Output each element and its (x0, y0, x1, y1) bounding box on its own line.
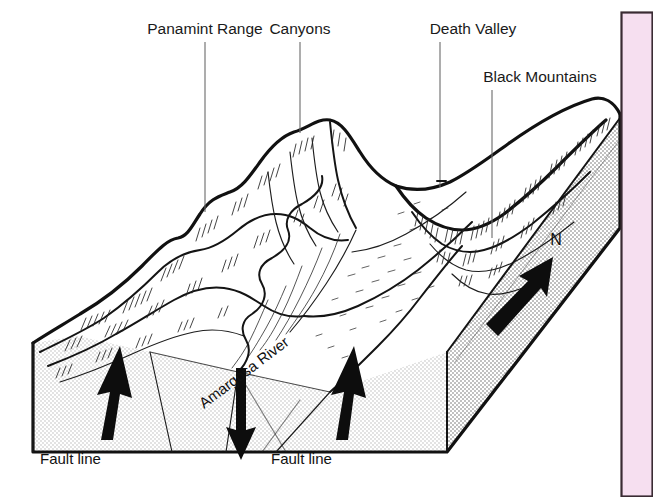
label-fault-line-right: Fault line (271, 450, 332, 467)
label-panamint-range: Panamint Range (147, 20, 262, 37)
block-diagram-figure: Panamint Range Canyons Death Valley Blac… (0, 0, 653, 497)
label-canyons: Canyons (269, 20, 330, 37)
label-fault-line-left: Fault line (40, 450, 101, 467)
diagram-svg: Panamint Range Canyons Death Valley Blac… (0, 0, 653, 497)
label-black-mountains: Black Mountains (483, 68, 597, 85)
label-north: N (550, 231, 562, 248)
pink-side-panel (622, 13, 653, 497)
label-death-valley: Death Valley (430, 20, 517, 37)
